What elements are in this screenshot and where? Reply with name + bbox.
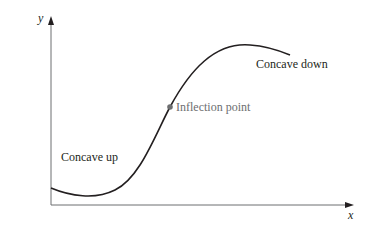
concave-up-label: Concave up	[61, 150, 118, 164]
inflection-point-label: Inflection point	[176, 100, 251, 114]
x-axis-label: x	[347, 208, 354, 222]
concavity-diagram: y x Inflection point Concave up Concave …	[0, 0, 390, 234]
diagram-canvas: y x Inflection point Concave up Concave …	[0, 0, 390, 234]
function-curve	[51, 45, 290, 196]
y-axis-label: y	[37, 11, 44, 25]
inflection-point-marker	[167, 104, 173, 110]
concave-down-label: Concave down	[256, 57, 328, 71]
y-axis-arrow-icon	[48, 16, 54, 25]
